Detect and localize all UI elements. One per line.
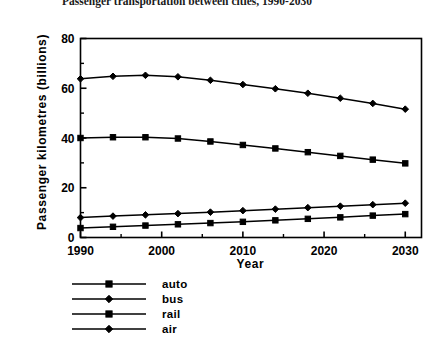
- x-tick-label: 2030: [392, 244, 419, 258]
- data-point-bus: [240, 207, 247, 214]
- data-point-rail: [208, 220, 213, 225]
- series-bus: [77, 200, 408, 221]
- data-point-rail: [305, 216, 310, 221]
- data-point-air: [77, 75, 84, 82]
- data-series: [77, 72, 408, 231]
- data-point-air: [272, 85, 279, 92]
- legend-label-rail: rail: [162, 308, 180, 320]
- x-tick-label: 2020: [311, 244, 338, 258]
- y-tick-label: 80: [61, 32, 75, 46]
- data-point-auto: [273, 146, 278, 151]
- y-tick-label: 40: [61, 132, 75, 146]
- data-point-rail: [240, 219, 245, 224]
- y-tick-label: 20: [61, 181, 75, 195]
- data-point-auto: [305, 149, 310, 154]
- data-point-air: [240, 81, 247, 88]
- legend-marker-air: [105, 325, 112, 332]
- series-auto: [78, 135, 408, 167]
- data-point-air: [369, 100, 376, 107]
- x-tick-label: 1990: [67, 244, 94, 258]
- data-point-air: [337, 95, 344, 102]
- chart-legend: autobusrailair: [70, 276, 260, 336]
- legend-sample-rail: [70, 307, 148, 321]
- data-point-bus: [337, 203, 344, 210]
- legend-item-auto[interactable]: auto: [70, 276, 260, 291]
- data-point-auto: [110, 135, 115, 140]
- legend-label-bus: bus: [162, 293, 183, 305]
- data-point-rail: [273, 218, 278, 223]
- x-tick-label: 2010: [230, 244, 257, 258]
- legend-sample-auto: [70, 277, 148, 291]
- data-point-bus: [369, 201, 376, 208]
- data-point-bus: [207, 209, 214, 216]
- data-point-bus: [110, 213, 117, 220]
- data-point-air: [402, 106, 409, 113]
- y-tick-label: 60: [61, 82, 75, 96]
- data-point-bus: [402, 200, 409, 207]
- data-point-auto: [175, 136, 180, 141]
- legend-marker-rail: [106, 310, 112, 316]
- data-point-rail: [338, 215, 343, 220]
- data-point-auto: [370, 157, 375, 162]
- plot-area: 02040608019902000201020202030: [0, 0, 434, 270]
- data-point-auto: [208, 139, 213, 144]
- series-line-auto: [81, 137, 406, 163]
- legend-label-auto: auto: [162, 278, 187, 290]
- data-point-air: [207, 77, 214, 84]
- series-air: [77, 72, 408, 112]
- data-point-rail: [78, 225, 83, 230]
- data-point-rail: [370, 213, 375, 218]
- series-line-air: [81, 75, 406, 109]
- data-point-bus: [77, 214, 84, 221]
- data-point-auto: [338, 153, 343, 158]
- chart-figure: Passenger transportation between cities,…: [0, 0, 434, 340]
- data-point-air: [142, 72, 149, 79]
- data-point-auto: [78, 135, 83, 140]
- data-point-auto: [240, 142, 245, 147]
- data-point-rail: [110, 224, 115, 229]
- legend-marker-auto: [106, 280, 112, 286]
- data-point-auto: [403, 161, 408, 166]
- data-point-bus: [272, 206, 279, 213]
- legend-label-air: air: [162, 323, 177, 335]
- data-point-bus: [142, 212, 149, 219]
- legend-sample-air: [70, 322, 148, 336]
- legend-sample-bus: [70, 292, 148, 306]
- data-point-auto: [143, 135, 148, 140]
- data-point-bus: [175, 210, 182, 217]
- data-point-rail: [175, 222, 180, 227]
- data-point-rail: [403, 211, 408, 216]
- legend-marker-bus: [105, 295, 112, 302]
- legend-item-bus[interactable]: bus: [70, 291, 260, 306]
- x-tick-label: 2000: [148, 244, 175, 258]
- data-point-rail: [143, 223, 148, 228]
- data-point-air: [305, 90, 312, 97]
- data-point-air: [175, 74, 182, 81]
- legend-item-rail[interactable]: rail: [70, 306, 260, 321]
- legend-item-air[interactable]: air: [70, 321, 260, 336]
- data-point-bus: [305, 204, 312, 211]
- data-point-air: [110, 73, 117, 80]
